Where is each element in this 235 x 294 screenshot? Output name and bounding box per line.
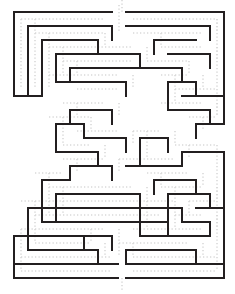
maze-figure (0, 0, 235, 294)
maze-canvas (0, 0, 235, 294)
